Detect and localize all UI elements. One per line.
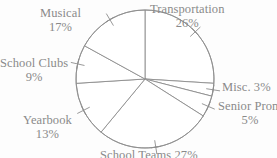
pie-label-senior-prom: Senior Prom 5% [218,99,277,127]
pie-label-school-clubs: School Clubs 9% [0,56,68,84]
pie-label-senior-prom-pct: 5% [218,113,277,127]
pie-label-transportation-name: Transportation [150,2,225,16]
pie-label-musical: Musical 17% [40,6,81,34]
pie-label-school-teams-name: School Teams [100,148,171,158]
pie-label-transportation: Transportation 26% [150,2,225,30]
pie-label-musical-name: Musical [40,6,81,20]
pie-label-senior-prom-name: Senior Prom [218,99,277,113]
pie-label-yearbook-pct: 13% [23,127,72,141]
pie-label-school-clubs-pct: 9% [0,70,68,84]
pie-label-transportation-pct: 26% [150,16,225,30]
pie-label-misc: Misc. 3% [222,80,271,94]
pie-label-misc-name: Misc. 3% [222,80,271,94]
pie-label-yearbook-name: Yearbook [23,113,72,127]
pie-label-school-clubs-name: School Clubs [0,56,68,70]
pie-label-musical-pct: 17% [40,20,81,34]
pie-slices-group [76,10,214,148]
pie-chart: Transportation 26% Misc. 3% Senior Prom … [0,0,277,158]
pie-label-yearbook: Yearbook 13% [23,113,72,141]
pie-label-school-teams-pct: 27% [175,148,198,158]
pie-label-school-teams: School Teams 27% [100,148,198,158]
